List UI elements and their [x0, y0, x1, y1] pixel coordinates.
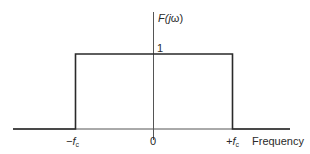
y-tick-one: 1 — [157, 42, 163, 54]
x-tick-zero: 0 — [150, 135, 156, 147]
y-axis-label: F(jω) — [158, 12, 183, 24]
x-tick-neg-fc: −fc — [66, 135, 79, 151]
response-curve — [13, 54, 290, 129]
chart-canvas — [0, 0, 310, 154]
x-tick-pos-fc: +fc — [226, 135, 239, 151]
x-axis-label: Frequency — [252, 135, 304, 147]
